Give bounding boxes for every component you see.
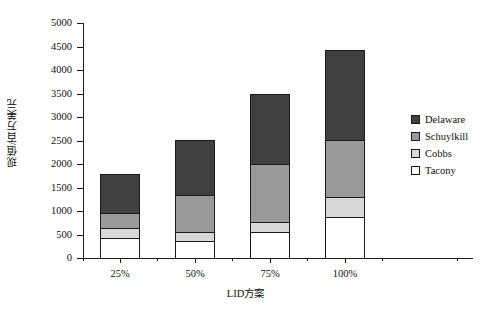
- legend-item-cobbs[interactable]: Cobbs: [411, 145, 468, 161]
- y-axis-tick: 1500: [77, 188, 83, 189]
- bar-group[interactable]: [325, 0, 365, 258]
- y-axis-tick: 4500: [77, 47, 83, 48]
- y-axis-tick: 1000: [77, 211, 83, 212]
- y-axis-tick-label: 2500: [51, 134, 72, 147]
- legend-item-tacony[interactable]: Tacony: [411, 162, 468, 178]
- y-axis-line: [83, 23, 84, 259]
- bar-segment-tacony[interactable]: [325, 217, 365, 259]
- bar-segment-schuylkill[interactable]: [100, 213, 140, 229]
- x-axis-minor-tick: [307, 258, 308, 261]
- legend-item-label: Tacony: [425, 165, 456, 176]
- y-axis-tick: 500: [77, 235, 83, 236]
- x-axis-tick-label: 50%: [185, 268, 204, 279]
- y-axis-tick-label: 1000: [51, 204, 72, 217]
- bar-segment-delaware[interactable]: [100, 174, 140, 214]
- y-axis-tick-label: 4000: [51, 63, 72, 76]
- chart-legend: DelawareSchuylkillCobbsTacony: [411, 111, 468, 179]
- x-axis-minor-tick: [457, 258, 458, 261]
- bar-segment-delaware[interactable]: [250, 94, 290, 165]
- x-axis-minor-tick: [157, 258, 158, 261]
- bar-segment-schuylkill[interactable]: [175, 195, 215, 233]
- y-axis-tick-label: 5000: [51, 16, 72, 29]
- y-axis-tick: 3500: [77, 94, 83, 95]
- bar-segment-cobbs[interactable]: [325, 197, 365, 218]
- legend-swatch-icon: [411, 132, 420, 141]
- bar-segment-tacony[interactable]: [175, 241, 215, 259]
- legend-item-delaware[interactable]: Delaware: [411, 111, 468, 127]
- bar-group[interactable]: [175, 0, 215, 258]
- bar-segment-delaware[interactable]: [325, 50, 365, 141]
- x-axis-title: LID方案: [0, 285, 491, 300]
- y-axis-tick-label: 4500: [51, 40, 72, 53]
- bar-group[interactable]: [100, 0, 140, 258]
- legend-swatch-icon: [411, 115, 420, 124]
- y-axis-tick: 2000: [77, 164, 83, 165]
- y-axis-tick-label: 1500: [51, 181, 72, 194]
- y-axis-tick: 4000: [77, 70, 83, 71]
- bar-segment-schuylkill[interactable]: [250, 164, 290, 223]
- bar-segment-tacony[interactable]: [100, 238, 140, 259]
- bar-segment-cobbs[interactable]: [250, 222, 290, 233]
- y-axis-tick: 2500: [77, 141, 83, 142]
- x-axis-tick-label: 100%: [333, 268, 358, 279]
- legend-item-label: Cobbs: [425, 148, 452, 159]
- legend-swatch-icon: [411, 149, 420, 158]
- legend-item-schuylkill[interactable]: Schuylkill: [411, 128, 468, 144]
- legend-item-label: Schuylkill: [425, 131, 468, 142]
- bar-segment-delaware[interactable]: [175, 140, 215, 196]
- y-axis-tick: 5000: [77, 23, 83, 24]
- bar-segment-tacony[interactable]: [250, 232, 290, 259]
- x-axis-tick-label: 75%: [260, 268, 279, 279]
- x-axis-tick-label: 25%: [110, 268, 129, 279]
- x-axis-minor-tick: [382, 258, 383, 261]
- legend-swatch-icon: [411, 166, 420, 175]
- y-axis-tick-label: 500: [56, 228, 72, 241]
- y-axis-tick-label: 0: [67, 251, 72, 264]
- y-axis-tick: 3000: [77, 117, 83, 118]
- bar-group[interactable]: [250, 0, 290, 258]
- y-axis-tick-label: 2000: [51, 157, 72, 170]
- bar-segment-schuylkill[interactable]: [325, 140, 365, 198]
- y-axis-title: 现值/百万美元: [4, 98, 22, 167]
- x-axis-minor-tick: [83, 258, 84, 261]
- y-axis-tick-label: 3000: [51, 110, 72, 123]
- bar-segment-cobbs[interactable]: [100, 228, 140, 239]
- bar-segment-cobbs[interactable]: [175, 232, 215, 242]
- legend-item-label: Delaware: [425, 114, 465, 125]
- x-axis-minor-tick: [232, 258, 233, 261]
- stacked-bar-chart: 现值/百万美元 05001000150020002500300035004000…: [0, 0, 491, 321]
- y-axis-tick-label: 3500: [51, 87, 72, 100]
